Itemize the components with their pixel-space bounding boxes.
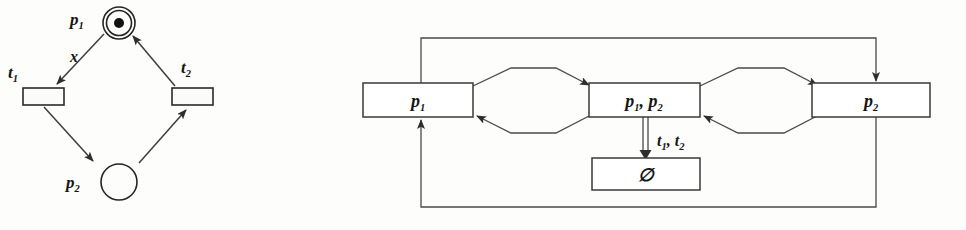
label-transition-t2: t2 <box>181 58 192 79</box>
transition-t1[interactable] <box>23 88 64 105</box>
figure-canvas: p1 x t1 t2 p2 <box>0 0 966 230</box>
edge-n2-to-n4 <box>640 117 652 160</box>
transition-t2[interactable] <box>172 88 213 105</box>
arc-p1-to-t1 <box>57 34 104 84</box>
figure-root: p1 x t1 t2 p2 <box>0 0 966 230</box>
place-p2-circle <box>101 164 137 200</box>
edge-n1-to-n2 <box>473 68 589 86</box>
reachability-graph-diagram: p1 p1, p2 p2 ∅ t1, t2 <box>363 38 930 207</box>
label-arc-x: x <box>69 48 78 65</box>
place-p1[interactable] <box>103 7 135 39</box>
edge-n2-to-n1 <box>477 116 589 133</box>
label-transition-t1: t1 <box>8 63 18 84</box>
node-label-p1-p2: p1, p2 <box>623 91 663 113</box>
label-place-p1: p1 <box>68 10 84 31</box>
arc-p2-to-t2 <box>139 110 186 163</box>
edge-n2-to-n3 <box>700 68 817 86</box>
petri-net-diagram: p1 x t1 t2 p2 <box>8 7 213 200</box>
edge-n3-to-n2 <box>704 116 817 133</box>
place-p2[interactable] <box>101 164 137 200</box>
node-label-empty-set: ∅ <box>638 165 656 185</box>
edge-outer-top-n1-to-n3 <box>421 38 876 83</box>
arc-t1-to-p2 <box>44 107 93 161</box>
label-place-p2: p2 <box>64 173 81 194</box>
place-p1-token <box>114 18 124 28</box>
edge-label-t1-t2: t1, t2 <box>657 132 685 152</box>
arc-t2-to-p1 <box>133 36 175 86</box>
